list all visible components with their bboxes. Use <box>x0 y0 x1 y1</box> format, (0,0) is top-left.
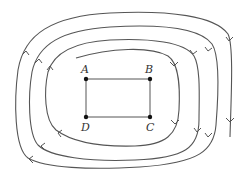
label-a: A <box>80 63 89 76</box>
arrow-icon <box>205 133 212 137</box>
point-b <box>148 77 152 81</box>
spiral-line <box>16 12 232 168</box>
point-c <box>148 115 152 119</box>
arrow-icon <box>190 50 197 54</box>
arrow-icon <box>194 128 201 132</box>
arrowheads <box>22 37 234 163</box>
label-c: C <box>146 121 155 134</box>
point-a <box>84 77 88 81</box>
label-b: B <box>144 63 153 76</box>
arrow-icon <box>205 47 212 51</box>
vertices <box>84 77 152 119</box>
spiral-diagram: A B C D <box>0 0 248 178</box>
rectangle-abcd <box>86 79 150 117</box>
label-d: D <box>80 121 90 134</box>
point-d <box>84 115 88 119</box>
